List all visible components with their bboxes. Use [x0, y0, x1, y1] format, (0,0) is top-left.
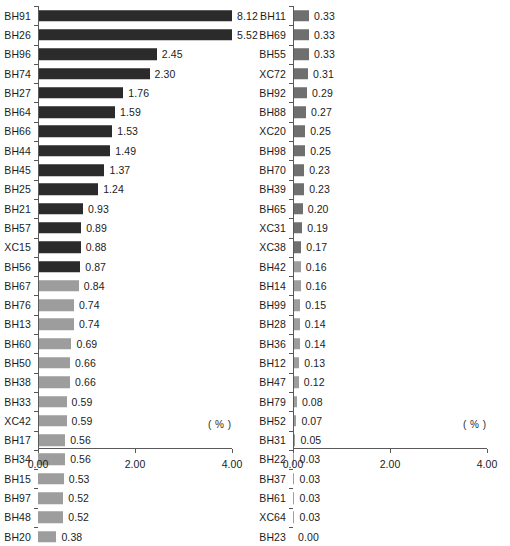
bar [293, 299, 300, 311]
category-label: BH50 [4, 358, 31, 369]
bar [293, 338, 300, 350]
bar-value-label: 0.31 [313, 68, 334, 79]
category-label: BH52 [259, 416, 286, 427]
y-axis-tick [34, 527, 38, 528]
bar-row: BH790.08 [293, 392, 487, 411]
bar-row: BH230.00 [293, 527, 487, 546]
bar [38, 299, 74, 311]
category-label: BH42 [259, 261, 286, 272]
bar-row: BH920.29 [293, 83, 487, 102]
category-label: XC38 [259, 242, 286, 253]
category-label: BH26 [4, 30, 31, 41]
bar-row: BH200.38 [38, 527, 232, 546]
chart-panel-left: BH918.12BH265.52BH962.45BH742.30BH271.76… [0, 0, 255, 487]
bar-row: BH130.74 [38, 315, 232, 334]
bar [38, 492, 63, 504]
bar-value-label: 0.17 [306, 242, 327, 253]
bar-row: BH210.93 [38, 199, 232, 218]
bar-row: BH280.14 [293, 315, 487, 334]
bar-row: BH500.66 [38, 353, 232, 372]
bar-value-label: 0.52 [68, 512, 89, 523]
category-label: BH97 [4, 493, 31, 504]
bar-row: BH110.33 [293, 6, 487, 25]
category-label: BH39 [259, 184, 286, 195]
bar [38, 145, 110, 157]
bar-value-label: 0.56 [70, 454, 91, 465]
bar-row: BH760.74 [38, 295, 232, 314]
bar-row: BH990.15 [293, 295, 487, 314]
bar [293, 29, 309, 41]
category-label: BH56 [4, 261, 31, 272]
bar-row: BH641.59 [38, 102, 232, 121]
category-label: BH33 [4, 396, 31, 407]
bar-row: XC310.19 [293, 218, 487, 237]
bar [38, 319, 74, 331]
unit-note-right: ( % ) [463, 420, 487, 430]
category-label: BH36 [259, 338, 286, 349]
bar [38, 87, 123, 99]
category-label: BH20 [4, 531, 31, 542]
bar-value-label: 0.25 [310, 145, 331, 156]
bar-value-label: 0.33 [314, 49, 335, 60]
bar [38, 48, 157, 60]
bar-row: BH918.12 [38, 6, 232, 25]
bar-value-label: 0.88 [86, 242, 107, 253]
category-label: XC15 [4, 242, 31, 253]
bar-value-label: 0.29 [312, 88, 333, 99]
bar-value-label: 0.07 [301, 416, 322, 427]
bar [38, 241, 81, 253]
x-axis-tick-label: 0.00 [283, 459, 303, 470]
bar [293, 261, 301, 273]
bar-row: BH140.16 [293, 276, 487, 295]
bar [38, 512, 63, 524]
bar-row: XC380.17 [293, 238, 487, 257]
bar-row: XC640.03 [293, 508, 487, 527]
bar [293, 145, 305, 157]
category-label: BH91 [4, 10, 31, 21]
category-label: BH45 [4, 165, 31, 176]
bar [293, 106, 306, 118]
bar-value-label: 2.45 [162, 49, 183, 60]
bar-value-label: 0.23 [309, 184, 330, 195]
y-axis-tick [289, 527, 293, 528]
bar-value-label: 0.66 [75, 377, 96, 388]
bar-value-label: 0.89 [86, 223, 107, 234]
category-label: BH17 [4, 435, 31, 446]
bar-row: BH690.33 [293, 25, 487, 44]
bar-value-label: 0.05 [300, 435, 321, 446]
bar [293, 68, 308, 80]
category-label: BH57 [4, 223, 31, 234]
x-axis-tick [38, 449, 39, 453]
bar-row: BH380.66 [38, 373, 232, 392]
bar [293, 87, 307, 99]
bar [38, 396, 67, 408]
category-label: BH23 [259, 531, 286, 542]
bar [293, 319, 300, 331]
bar-value-label: 0.16 [306, 281, 327, 292]
bar-value-label: 1.24 [103, 184, 124, 195]
bar-row: XC200.25 [293, 122, 487, 141]
category-label: BH47 [259, 377, 286, 388]
bar [293, 164, 304, 176]
category-label: BH12 [259, 358, 286, 369]
bar-value-label: 0.19 [307, 223, 328, 234]
x-axis-tick-label: 4.00 [477, 459, 497, 470]
bar [293, 222, 302, 234]
category-label: BH27 [4, 88, 31, 99]
y-axis-spine-right [293, 6, 294, 449]
y-axis-tick [34, 508, 38, 509]
bar [38, 261, 80, 273]
bar [293, 10, 309, 22]
category-label: BH98 [259, 145, 286, 156]
bar [38, 377, 70, 389]
category-label: BH61 [259, 493, 286, 504]
bar [293, 203, 303, 215]
bar [38, 338, 71, 350]
bar [293, 48, 309, 60]
bar [38, 106, 115, 118]
bar-value-label: 0.08 [302, 396, 323, 407]
bar [38, 203, 83, 215]
category-label: BH28 [259, 319, 286, 330]
bar-row: BH980.25 [293, 141, 487, 160]
